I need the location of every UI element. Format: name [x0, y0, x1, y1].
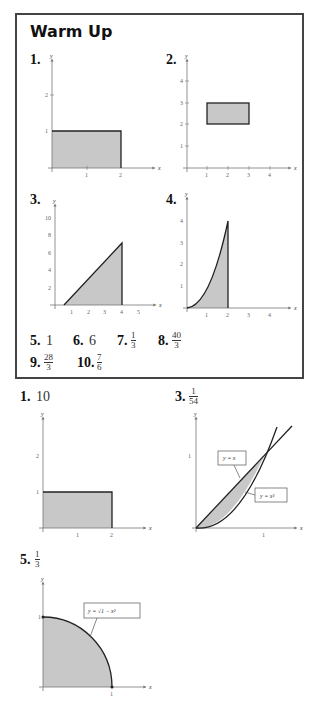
svg-text:1: 1 — [180, 283, 183, 289]
exercise-1-value: 10 — [36, 389, 50, 405]
exercise-3-number: 3. — [175, 389, 186, 405]
svg-text:y: y — [40, 411, 44, 417]
svg-text:8: 8 — [48, 232, 51, 238]
svg-text:1: 1 — [85, 172, 88, 178]
exercise-5-number: 5. — [20, 552, 31, 568]
svg-text:4: 4 — [180, 218, 183, 224]
svg-text:y: y — [52, 198, 56, 204]
svg-text:1: 1 — [70, 309, 73, 315]
answer-7-number: 7. — [117, 333, 128, 349]
svg-text:2: 2 — [45, 92, 48, 98]
svg-text:6: 6 — [48, 250, 51, 256]
svg-text:2: 2 — [226, 172, 229, 178]
svg-text:2: 2 — [110, 532, 113, 538]
svg-text:1: 1 — [180, 143, 183, 149]
svg-text:x: x — [158, 302, 162, 308]
svg-text:1: 1 — [110, 691, 113, 697]
graph-exercise-5: 11 yx y = √1 − x² — [38, 576, 152, 697]
svg-text:x: x — [148, 525, 152, 531]
svg-text:x: x — [157, 165, 161, 171]
label-y-equals-sqrt: y = √1 − x² — [87, 608, 116, 614]
svg-text:1: 1 — [36, 489, 39, 495]
svg-text:4: 4 — [268, 312, 271, 318]
answer-8-fraction: 403 — [172, 331, 181, 350]
graph-exercise-3: 11 yx y = x y = x² — [188, 411, 303, 538]
svg-text:4: 4 — [268, 172, 271, 178]
answer-10-number: 10. — [77, 355, 95, 371]
svg-text:x: x — [293, 165, 297, 171]
svg-text:1: 1 — [188, 453, 191, 459]
svg-text:1: 1 — [38, 614, 41, 620]
answer-9-number: 9. — [30, 355, 41, 371]
svg-text:3: 3 — [247, 172, 250, 178]
graph-warmup-3: 12345 246810 yx — [45, 198, 162, 315]
answer-5-number: 5. — [30, 333, 41, 349]
answer-8-number: 8. — [158, 333, 169, 349]
svg-text:y: y — [193, 411, 197, 417]
svg-text:1: 1 — [262, 532, 265, 538]
graph-warmup-2: 1234 1234 yx — [180, 53, 297, 178]
graph-warmup-1: 12 12 yx — [45, 53, 161, 178]
answer-6-value: 6 — [89, 333, 96, 349]
svg-text:1: 1 — [205, 312, 208, 318]
svg-text:y: y — [40, 576, 44, 582]
svg-text:2: 2 — [180, 121, 183, 127]
svg-text:2: 2 — [87, 309, 90, 315]
answer-7-fraction: 13 — [131, 331, 136, 350]
svg-text:2: 2 — [48, 285, 51, 291]
svg-text:4: 4 — [120, 309, 123, 315]
svg-text:2: 2 — [119, 172, 122, 178]
svg-text:1: 1 — [76, 532, 79, 538]
answer-5-value: 1 — [46, 333, 53, 349]
graph-warmup-4: 1234 1234 yx — [180, 191, 297, 318]
answer-10-fraction: 76 — [97, 353, 102, 372]
answer-6-number: 6. — [73, 333, 84, 349]
svg-text:3: 3 — [103, 309, 106, 315]
svg-text:4: 4 — [48, 267, 51, 273]
svg-text:3: 3 — [180, 240, 183, 246]
svg-text:2: 2 — [36, 453, 39, 459]
svg-text:y: y — [184, 53, 188, 59]
svg-text:5: 5 — [137, 309, 140, 315]
label-y-equals-x-squared: y = x² — [259, 493, 274, 499]
svg-text:x: x — [299, 525, 303, 531]
exercise-3-fraction: 154 — [189, 387, 198, 406]
svg-text:y: y — [49, 53, 53, 59]
svg-text:1: 1 — [45, 128, 48, 134]
svg-text:10: 10 — [45, 215, 51, 221]
svg-text:y: y — [184, 191, 188, 197]
svg-text:2: 2 — [226, 312, 229, 318]
graph-exercise-1: 12 12 yx — [36, 411, 152, 538]
svg-text:4: 4 — [180, 78, 183, 84]
svg-text:x: x — [293, 305, 297, 311]
svg-text:3: 3 — [247, 312, 250, 318]
svg-text:x: x — [148, 684, 152, 690]
label-y-equals-x: y = x — [222, 455, 236, 461]
exercise-5-fraction: 13 — [35, 550, 40, 569]
svg-text:2: 2 — [180, 261, 183, 267]
svg-text:3: 3 — [180, 100, 183, 106]
answer-9-fraction: 283 — [44, 353, 53, 372]
svg-text:1: 1 — [205, 172, 208, 178]
exercise-1-number: 1. — [20, 389, 31, 405]
